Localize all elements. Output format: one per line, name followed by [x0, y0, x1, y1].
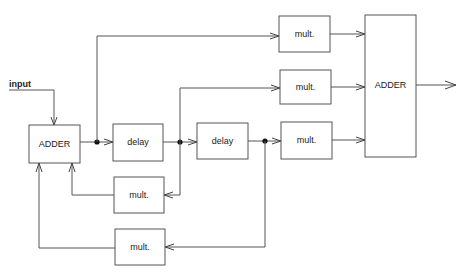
- wire-feedback2-adder: [39, 163, 115, 248]
- adder-output-block: ADDER: [365, 15, 416, 157]
- delay-1-block: delay: [113, 124, 163, 161]
- adder-input-label: ADDER: [39, 139, 71, 149]
- delay-1-label: delay: [127, 137, 149, 147]
- wire-feedback1-adder: [72, 163, 114, 195]
- delay-2-block: delay: [197, 123, 248, 159]
- mult-forward-1-label: mult.: [295, 29, 315, 39]
- input-label: input: [9, 79, 31, 89]
- mult-feedback-2-block: mult.: [115, 229, 165, 265]
- adder-output-label: ADDER: [375, 80, 407, 90]
- mult-forward-3-label: mult.: [297, 135, 317, 145]
- mult-forward-3-block: mult.: [281, 122, 332, 159]
- mult-feedback-1-block: mult.: [114, 177, 164, 213]
- block-diagram: input ADDER delay delay mult.: [0, 0, 472, 277]
- adder-input-block: ADDER: [29, 125, 80, 163]
- mult-forward-1-block: mult.: [279, 16, 330, 52]
- mult-feedback-1-label: mult.: [129, 190, 149, 200]
- delay-2-label: delay: [212, 136, 234, 146]
- wire-tap2-feedback1: [164, 142, 180, 195]
- mult-forward-2-label: mult.: [296, 82, 316, 92]
- input-wire: [9, 90, 54, 125]
- mult-forward-2-block: mult.: [280, 70, 331, 104]
- mult-feedback-2-label: mult.: [130, 242, 150, 252]
